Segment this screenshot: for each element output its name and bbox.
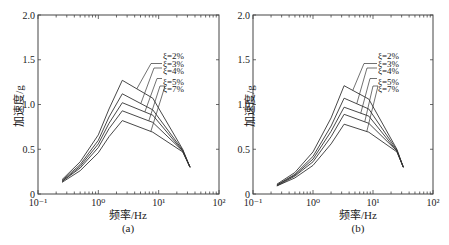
axes-frame	[253, 15, 433, 194]
series-line-ξ=7%	[277, 124, 403, 186]
x-tick-label: 10²	[427, 197, 440, 208]
y-tick-label: 1.5	[238, 54, 251, 65]
legend-label: ξ=7%	[163, 84, 185, 94]
chart-panel-a: 10⁻¹10⁰10¹10²00.51.01.52.0ξ=2%ξ=3%ξ=4%ξ=…	[0, 0, 225, 245]
panel-caption: (b)	[328, 222, 388, 234]
legend-leader-line	[141, 68, 162, 104]
legend-label: ξ=4%	[378, 66, 400, 76]
panel-caption: (a)	[98, 222, 158, 234]
legend-label: ξ=7%	[378, 84, 400, 94]
series-line-ξ=5%	[62, 111, 190, 182]
y-tick-label: 0	[30, 189, 35, 200]
legend-label: ξ=4%	[163, 66, 185, 76]
axes-frame	[38, 15, 219, 194]
y-ticks	[253, 15, 433, 194]
legend-leader-line	[353, 64, 377, 91]
legend-leader-line	[137, 64, 162, 89]
x-ticks	[38, 15, 219, 194]
series-line-ξ=7%	[62, 121, 190, 183]
y-tick-label: 0	[245, 189, 250, 200]
series-lines	[277, 86, 403, 186]
series-lines	[62, 80, 190, 182]
y-axis-label: 加速度/g	[10, 66, 26, 146]
y-axis-label: 加速度/g	[241, 66, 257, 146]
x-axis-label: 频率/Hz	[78, 206, 178, 222]
series-line-ξ=5%	[277, 114, 403, 186]
y-tick-label: 1.5	[23, 54, 36, 65]
y-ticks	[38, 15, 219, 194]
x-ticks	[253, 15, 433, 194]
y-tick-label: 2.0	[238, 10, 251, 21]
y-tick-label: 2.0	[23, 10, 36, 21]
x-axis-label: 频率/Hz	[308, 206, 408, 222]
chart-panel-b: 10⁻¹10⁰10¹10²00.51.01.52.0ξ=2%ξ=3%ξ=4%ξ=…	[215, 0, 440, 245]
